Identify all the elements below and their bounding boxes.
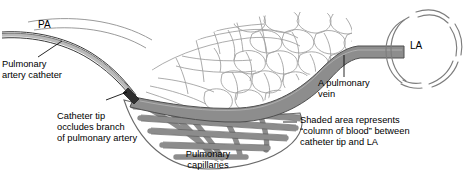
leader-catheter xyxy=(38,41,62,57)
label-la: LA xyxy=(410,40,422,51)
label-pulmonary-vein: A pulmonary vein xyxy=(318,78,370,100)
label-shaded-area: Shaded area represents “column of blood”… xyxy=(300,115,410,149)
leader-catheter-tip xyxy=(106,92,127,100)
figure-canvas: PA Pulmonary artery catheter Catheter ti… xyxy=(0,0,465,183)
label-catheter-tip: Catheter tip occludes branch of pulmonar… xyxy=(57,111,137,145)
label-pulmonary-artery-catheter: Pulmonary artery catheter xyxy=(2,59,62,81)
label-pa: PA xyxy=(38,19,51,30)
label-pulmonary-capillaries: Pulmonary capillaries xyxy=(168,149,248,171)
